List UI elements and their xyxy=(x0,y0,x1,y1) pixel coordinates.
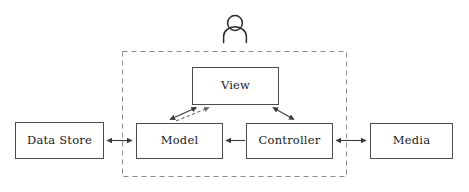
mvc-diagram: Data Store Model View Controller Media xyxy=(0,0,469,192)
node-model[interactable]: Model xyxy=(137,124,223,159)
node-controller[interactable]: Controller xyxy=(247,124,333,159)
node-media[interactable]: Media xyxy=(371,124,453,159)
diagram-canvas: Data Store Model View Controller Media xyxy=(0,0,469,192)
person-icon xyxy=(224,16,247,43)
node-data-store[interactable]: Data Store xyxy=(16,123,104,159)
node-label-view: View xyxy=(220,78,250,92)
node-label-controller: Controller xyxy=(259,133,321,147)
node-label-media: Media xyxy=(393,133,430,147)
node-view[interactable]: View xyxy=(193,68,279,105)
edge-view-controller xyxy=(273,108,294,120)
node-label-data-store: Data Store xyxy=(27,133,92,147)
node-label-model: Model xyxy=(161,133,199,147)
